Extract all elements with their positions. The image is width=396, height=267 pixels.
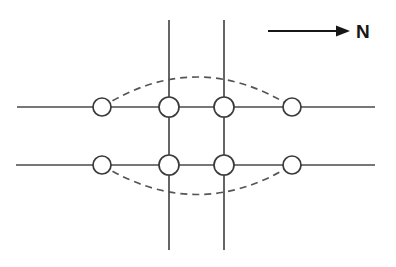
diagram-background <box>0 0 396 267</box>
road-network-diagram: N <box>0 0 396 267</box>
upper-right-outer-node <box>283 98 301 116</box>
lower-right-outer-node <box>283 156 301 174</box>
north-label: N <box>356 21 370 42</box>
lower-left-outer-node <box>93 156 111 174</box>
upper-left-inner-node <box>159 97 179 117</box>
diagram-canvas: N <box>0 0 396 267</box>
lower-right-inner-node <box>214 155 234 175</box>
lower-left-inner-node <box>159 155 179 175</box>
upper-left-outer-node <box>93 98 111 116</box>
upper-right-inner-node <box>214 97 234 117</box>
